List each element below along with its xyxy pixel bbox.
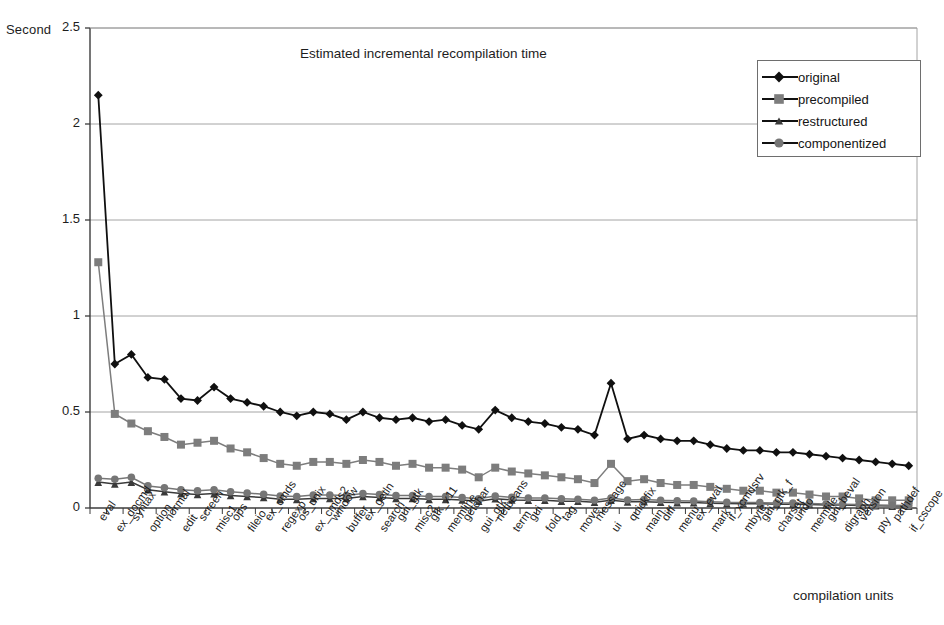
legend-item-componentized[interactable]: componentized: [758, 132, 920, 154]
legend-label-original: original: [798, 70, 840, 85]
legend-item-precompiled[interactable]: precompiled: [758, 88, 920, 110]
legend-label-componentized: componentized: [798, 136, 886, 151]
chart-legend: original precompiled restructured compon…: [757, 60, 921, 157]
legend-key-triangle-icon: [762, 114, 798, 128]
legend-item-original[interactable]: original: [758, 66, 920, 88]
legend-key-circle-icon: [762, 136, 798, 150]
legend-key-square-icon: [762, 92, 798, 106]
legend-key-diamond-icon: [762, 70, 798, 84]
legend-label-restructured: restructured: [798, 114, 867, 129]
legend-label-precompiled: precompiled: [798, 92, 869, 107]
legend-item-restructured[interactable]: restructured: [758, 110, 920, 132]
